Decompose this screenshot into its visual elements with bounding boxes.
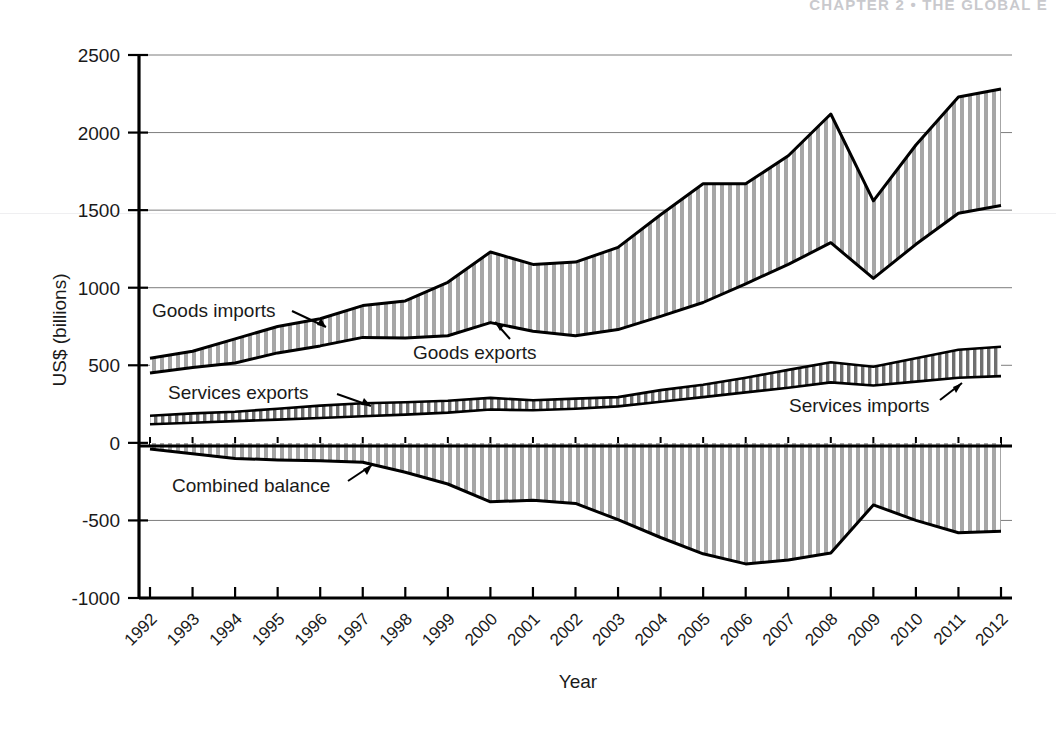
y-tick-label: -500 — [82, 510, 120, 531]
goods-trade-gap-band — [150, 89, 1001, 373]
x-tick-label: 2005 — [674, 609, 714, 649]
y-tick-label: 2000 — [78, 123, 120, 144]
x-axis-title: Year — [559, 671, 598, 692]
annotation-combined-balance: Combined balance — [172, 475, 330, 496]
x-tick-label: 2012 — [972, 609, 1012, 649]
annotation-goods-exports: Goods exports — [413, 342, 537, 363]
x-tick-label: 2008 — [801, 609, 841, 649]
x-tick-label: 1998 — [376, 609, 416, 649]
y-tick-label: 0 — [109, 433, 120, 454]
x-tick-label: 2003 — [589, 609, 629, 649]
x-tick-label: 2011 — [930, 609, 969, 648]
x-tick-label: 2001 — [504, 609, 544, 649]
x-tick-label: 1994 — [206, 609, 246, 649]
x-tick-label: 2006 — [716, 609, 756, 649]
x-tick-label: 1995 — [248, 609, 288, 649]
y-tick-label: 1500 — [78, 200, 120, 221]
x-axis-tick-labels: 1992199319941995199619971998199920002001… — [121, 609, 1012, 649]
x-tick-label: 1999 — [418, 609, 458, 649]
annotation-arrowhead-combined-balance — [363, 465, 372, 475]
annotation-arrowhead-services-imports — [953, 383, 962, 393]
x-tick-label: 2004 — [631, 609, 671, 649]
x-tick-label: 1993 — [163, 609, 203, 649]
trade-balance-area-chart: 25002000150010005000-500-1000 1992199319… — [0, 0, 1056, 732]
x-tick-label: 2007 — [759, 609, 799, 649]
y-tick-label: 500 — [88, 355, 120, 376]
x-tick-label: 2002 — [546, 609, 586, 649]
x-tick-label: 2000 — [461, 609, 501, 649]
x-tick-label: 1997 — [333, 609, 373, 649]
y-axis-title: US$ (billions) — [49, 274, 70, 387]
y-tick-label: 2500 — [78, 45, 120, 66]
annotation-services-exports: Services exports — [168, 382, 308, 403]
annotation-goods-imports: Goods imports — [152, 300, 276, 321]
y-axis-tick-labels: 25002000150010005000-500-1000 — [71, 45, 120, 609]
y-tick-label: 1000 — [78, 278, 120, 299]
annotation-services-imports: Services imports — [789, 395, 929, 416]
chart-figure: 25002000150010005000-500-1000 1992199319… — [0, 0, 1056, 732]
x-tick-label: 2010 — [887, 609, 927, 649]
x-tick-label: 1996 — [291, 609, 331, 649]
x-tick-label: 2009 — [844, 609, 884, 649]
x-tick-label: 1992 — [121, 609, 161, 649]
y-tick-label: -1000 — [71, 588, 120, 609]
